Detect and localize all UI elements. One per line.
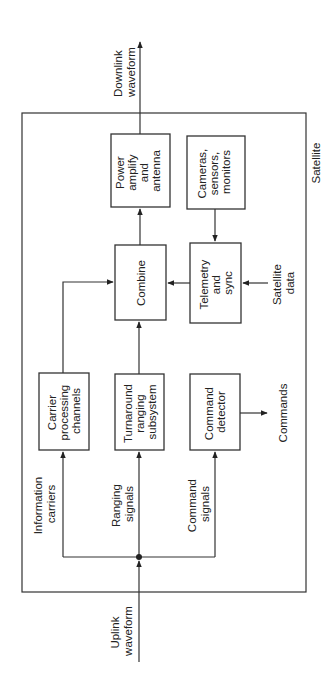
block-carrier-processing: Carrier processing channels bbox=[39, 373, 89, 450]
block-command-detector: Command detector bbox=[190, 374, 240, 450]
block-telemetry-sync: Telemetry and sync bbox=[190, 243, 241, 323]
label-command-signals: Command signals bbox=[186, 476, 211, 532]
block-power-amplify: Power amplify and antenna bbox=[111, 134, 170, 207]
svg-text:Cameras, sensors,: Cameras, sensors, monitors bbox=[196, 145, 232, 198]
label-satellite-data: Satellite data bbox=[271, 261, 296, 305]
block-turnaround-ranging: Turnaround ranging subsystem bbox=[115, 374, 164, 450]
label-information-carriers: Information carriers bbox=[32, 474, 57, 535]
label-satellite: Satellite bbox=[310, 143, 322, 184]
satellite-block-diagram: Power amplify and antenna Cameras, senso… bbox=[0, 0, 324, 678]
svg-text:Command detector: Command detector bbox=[203, 384, 227, 440]
block-cameras-sensors: Cameras, sensors, monitors bbox=[187, 136, 245, 209]
label-commands: Commands bbox=[277, 383, 289, 442]
block-combine: Combine bbox=[115, 245, 166, 320]
label-downlink-waveform: Downlink waveform bbox=[112, 47, 137, 98]
junction-dot bbox=[136, 554, 142, 560]
label-ranging-signals: Ranging signals bbox=[110, 481, 135, 527]
label-uplink-waveform: Uplink waveform bbox=[109, 606, 134, 657]
svg-text:Combine: Combine bbox=[135, 260, 147, 306]
